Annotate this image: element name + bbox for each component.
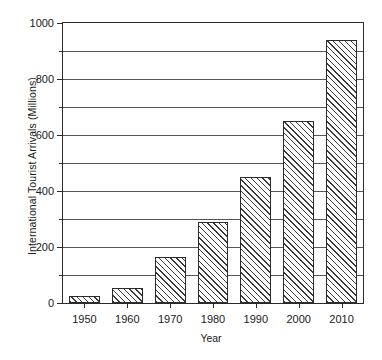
gridline — [63, 219, 363, 220]
x-axis-tick-label: 1990 — [244, 313, 268, 325]
x-axis-tick — [299, 303, 300, 308]
x-axis-tick-label: 2000 — [286, 313, 310, 325]
bar-chart: International Tourist Arrivals (Millions… — [0, 0, 382, 360]
y-axis-tick-minor — [59, 107, 63, 108]
x-axis-tick — [342, 303, 343, 308]
y-axis-tick-label: 200 — [36, 241, 54, 253]
bar — [112, 288, 143, 303]
y-axis-tick-minor — [59, 275, 63, 276]
gridline — [63, 79, 363, 80]
y-axis-tick-major — [57, 79, 63, 80]
bar — [326, 40, 357, 303]
bar — [69, 296, 100, 303]
y-axis-tick-major — [57, 303, 63, 304]
x-axis-tick — [170, 303, 171, 308]
bar — [198, 222, 229, 303]
bar — [283, 121, 314, 303]
y-axis-tick-label: 0 — [48, 297, 54, 309]
y-axis-title: International Tourist Arrivals (Millions… — [26, 16, 38, 316]
x-axis-tick — [213, 303, 214, 308]
y-axis-tick-major — [57, 247, 63, 248]
y-axis-tick-label: 800 — [36, 73, 54, 85]
x-axis-tick-label: 1970 — [158, 313, 182, 325]
y-axis-tick-major — [57, 23, 63, 24]
y-axis-tick-minor — [59, 51, 63, 52]
y-axis-tick-minor — [59, 163, 63, 164]
x-axis-tick-label: 1980 — [201, 313, 225, 325]
x-axis-tick — [256, 303, 257, 308]
y-axis-tick-label: 600 — [36, 129, 54, 141]
bar — [240, 177, 271, 303]
bar — [155, 257, 186, 303]
x-axis-title: Year — [60, 332, 362, 344]
y-axis-tick-minor — [59, 219, 63, 220]
plot-area: 0200400600800100019501960197019801990200… — [62, 22, 364, 304]
gridline — [63, 135, 363, 136]
x-axis-tick-label: 1950 — [72, 313, 96, 325]
gridline — [63, 163, 363, 164]
x-axis-tick-label: 2010 — [329, 313, 353, 325]
x-axis-tick-label: 1960 — [115, 313, 139, 325]
gridline — [63, 191, 363, 192]
y-axis-tick-major — [57, 135, 63, 136]
y-axis-tick-label: 1000 — [30, 17, 54, 29]
x-axis-tick — [127, 303, 128, 308]
x-axis-tick — [84, 303, 85, 308]
y-axis-tick-label: 400 — [36, 185, 54, 197]
y-axis-tick-major — [57, 191, 63, 192]
gridline — [63, 107, 363, 108]
gridline — [63, 51, 363, 52]
